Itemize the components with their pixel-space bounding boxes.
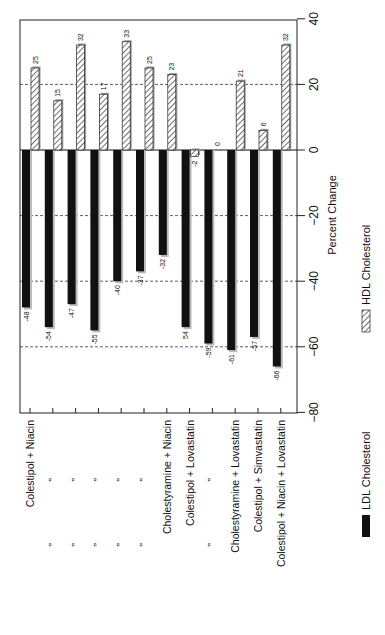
legend-ldl-label: LDL Cholesterol <box>360 432 372 510</box>
category-label: Cholestyramine + Niacin <box>161 420 173 534</box>
ldl-bar <box>204 150 212 344</box>
ldl-value-label: -66 <box>273 370 280 380</box>
bar-chart: -4825-5415-4732-5517-4033-3725-322354-2-… <box>0 0 385 635</box>
category-ditto-mark: ” <box>138 543 150 547</box>
ldl-bar <box>159 150 167 255</box>
axis-tick-label: 40 <box>307 12 321 26</box>
hdl-bar <box>236 81 244 150</box>
ldl-bar <box>273 150 281 366</box>
category-label: Colestipol + Simvastatin <box>252 420 264 533</box>
ldl-bar <box>68 150 76 304</box>
hdl-value-label: 21 <box>237 69 244 77</box>
hdl-value-label: -2 <box>191 160 198 166</box>
category-label: Colestipol + Niacin + Lovastatin <box>275 420 287 567</box>
hdl-bar <box>77 45 85 150</box>
axis-tick-label: −60 <box>307 336 321 357</box>
hdl-value-label: 33 <box>123 30 130 38</box>
legend-ldl-swatch <box>362 515 370 537</box>
ldl-bar <box>136 150 144 271</box>
hdl-value-label: 25 <box>32 56 39 64</box>
hdl-value-label: 0 <box>214 142 221 146</box>
ldl-bar <box>45 150 53 327</box>
axis-tick-label: 20 <box>307 77 321 91</box>
chart-container: -4825-5415-4732-5517-4033-3725-322354-2-… <box>0 0 385 635</box>
axis-tick-label: −80 <box>307 402 321 423</box>
ldl-value-label: -54 <box>45 331 52 341</box>
category-ditto-mark: ” <box>70 478 82 482</box>
hdl-bar <box>122 42 130 150</box>
axis-tick-label: −20 <box>307 205 321 226</box>
axis-tick-label: 0 <box>307 146 321 153</box>
ldl-bar <box>22 150 30 307</box>
ldl-bar <box>90 150 98 330</box>
category-ditto-mark: ” <box>115 543 127 547</box>
legend-hdl-label: HDL Cholesterol <box>360 225 372 305</box>
category-ditto-mark: ” <box>47 478 59 482</box>
category-label: Cholestyramine + Lovastatin <box>229 420 241 553</box>
category-labels: Colestipol + Niacin””””””””””Cholestyram… <box>24 420 287 567</box>
hdl-value-label: 32 <box>77 33 84 41</box>
hdl-value-label: 15 <box>54 89 61 97</box>
hdl-value-label: 6 <box>260 122 267 126</box>
ldl-value-label: -61 <box>228 354 235 364</box>
category-ditto-mark: ” <box>47 543 59 547</box>
ldl-bar <box>227 150 235 350</box>
hdl-bar <box>191 150 199 157</box>
category-ditto-mark: ” <box>206 543 218 547</box>
ldl-value-label: -59 <box>205 347 212 357</box>
hdl-value-label: 17 <box>100 82 107 90</box>
hdl-value-label: 23 <box>168 63 175 71</box>
hdl-bar <box>259 130 267 150</box>
ldl-bar <box>182 150 190 327</box>
hdl-bar <box>31 68 39 150</box>
axis-title: Percent Change <box>326 175 338 255</box>
legend: LDL Cholesterol HDL Cholesterol <box>360 225 372 537</box>
ldl-value-label: -47 <box>68 308 75 318</box>
category-ditto-mark: ” <box>138 478 150 482</box>
bars-group: -4825-5415-4732-5517-4033-3725-322354-2-… <box>22 30 291 413</box>
ldl-value-label: 54 <box>182 331 189 339</box>
ldl-value-label: -32 <box>159 259 166 269</box>
hdl-bar <box>99 94 107 150</box>
category-ditto-mark: ” <box>70 543 82 547</box>
axis-tick-label: −40 <box>307 271 321 292</box>
hdl-bar <box>168 75 176 150</box>
hdl-bar <box>282 45 290 150</box>
category-ditto-mark: ” <box>92 543 104 547</box>
ldl-bar <box>113 150 121 281</box>
ldl-value-label: -57 <box>251 341 258 351</box>
ldl-bar <box>250 150 258 337</box>
hdl-value-label: 32 <box>282 33 289 41</box>
category-ditto-mark: ” <box>206 478 218 482</box>
ldl-value-label: -55 <box>91 334 98 344</box>
legend-hdl-swatch <box>362 310 370 332</box>
hdl-bar <box>145 68 153 150</box>
value-axis: 40200−20−40−60−80 <box>297 12 321 423</box>
category-label: Colestipol + Lovastatin <box>184 420 196 526</box>
category-ditto-mark: ” <box>92 478 104 482</box>
ldl-value-label: -40 <box>114 285 121 295</box>
ldl-value-label: -37 <box>137 275 144 285</box>
category-label: Colestipol + Niacin <box>24 420 36 507</box>
ldl-value-label: -48 <box>23 311 30 321</box>
category-ditto-mark: ” <box>115 478 127 482</box>
hdl-bar <box>54 101 62 150</box>
hdl-value-label: 25 <box>146 56 153 64</box>
